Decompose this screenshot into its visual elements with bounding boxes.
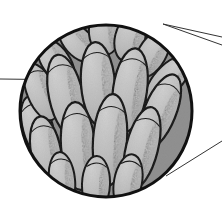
figure-root (0, 0, 222, 211)
magnified-detail-illustration (0, 0, 222, 211)
